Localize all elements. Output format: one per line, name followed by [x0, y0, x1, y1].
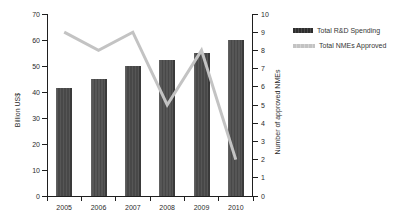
nmes-approved-line — [47, 14, 253, 196]
left-axis-tick-label: 40 — [18, 88, 40, 97]
x-axis-tick — [150, 197, 151, 201]
x-axis-year-label: 2010 — [220, 203, 252, 212]
bar-series-swatch-icon — [293, 28, 313, 33]
right-axis-tick-label: 8 — [261, 46, 279, 55]
x-axis-tick — [218, 197, 219, 201]
x-axis-tick — [47, 197, 48, 201]
right-axis-tick — [253, 32, 258, 33]
right-axis-tick-label: 10 — [261, 10, 279, 19]
left-axis-tick-label: 50 — [18, 62, 40, 71]
left-axis-tick-label: 10 — [18, 166, 40, 175]
x-axis-year-label: 2009 — [186, 203, 218, 212]
legend-item-nmes-approved: Total NMEs Approved — [293, 42, 386, 49]
right-axis-tick-label: 9 — [261, 28, 279, 37]
right-axis-tick — [253, 50, 258, 51]
legend-label-rd-spending: Total R&D Spending — [317, 27, 380, 34]
left-axis-tick-label: 0 — [18, 192, 40, 201]
right-axis-tick-label: 2 — [261, 155, 279, 164]
left-axis-tick-label: 20 — [18, 140, 40, 149]
x-axis-tick — [115, 197, 116, 201]
x-axis-tick — [184, 197, 185, 201]
x-axis-year-label: 2005 — [48, 203, 80, 212]
right-axis-tick — [253, 14, 258, 15]
right-axis-tick — [253, 105, 258, 106]
x-axis-tick — [81, 197, 82, 201]
right-axis-tick-label: 0 — [261, 192, 279, 201]
right-axis-tick-label: 1 — [261, 173, 279, 182]
legend: Total R&D Spending Total NMEs Approved — [293, 27, 386, 49]
line-series-swatch-icon — [293, 44, 315, 48]
right-axis-tick — [253, 68, 258, 69]
right-axis-title: Number of approved NMEs — [274, 70, 281, 155]
x-axis-tick — [253, 197, 254, 201]
right-axis-tick — [253, 196, 258, 197]
legend-label-nmes-approved: Total NMEs Approved — [319, 42, 386, 49]
right-axis-tick — [253, 159, 258, 160]
right-axis-tick — [253, 86, 258, 87]
x-axis-year-label: 2008 — [151, 203, 183, 212]
x-axis-year-label: 2006 — [83, 203, 115, 212]
left-axis-tick-label: 60 — [18, 36, 40, 45]
rd-spending-vs-nme-chart: Billion US$ 0102030405060700123456789102… — [0, 0, 405, 223]
left-axis-tick-label: 70 — [18, 10, 40, 19]
right-axis-tick — [253, 141, 258, 142]
legend-item-rd-spending: Total R&D Spending — [293, 27, 386, 34]
left-axis-tick-label: 30 — [18, 114, 40, 123]
line-path — [64, 32, 236, 159]
right-axis-tick — [253, 123, 258, 124]
plot-area: 0102030405060700123456789102005200620072… — [47, 14, 253, 196]
x-axis-year-label: 2007 — [117, 203, 149, 212]
right-axis-tick — [253, 177, 258, 178]
